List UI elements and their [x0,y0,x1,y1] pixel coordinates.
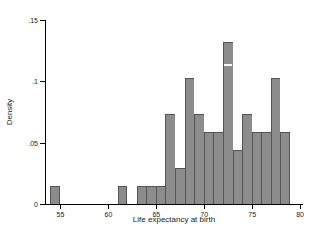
histogram-bar [194,114,204,204]
x-tick-label: 55 [50,210,71,219]
histogram-bar [252,132,262,204]
y-axis-title: Density [5,99,14,126]
y-axis-line [45,20,46,205]
x-tick-label: 75 [242,210,263,219]
histogram-bar [223,42,233,204]
y-tick [40,20,45,21]
x-tick-label: 60 [98,210,119,219]
histogram-bar [185,78,195,204]
x-tick-label: 70 [194,210,215,219]
histogram-bar [50,186,60,204]
histogram-bar [261,132,271,204]
y-tick [40,81,45,82]
y-tick-label: .05 [8,139,38,148]
histogram-bar [233,150,243,204]
histogram-bar [118,186,128,204]
histogram-bar [175,168,185,204]
histogram-bar [156,186,166,204]
histogram-bar [280,132,290,204]
y-tick-label: 0 [8,200,38,209]
x-tick [60,205,61,209]
histogram-bar [137,186,147,204]
histogram-bar [242,114,252,204]
y-tick [40,204,45,205]
white-line-artifact [224,64,232,66]
y-tick-label: .1 [8,77,38,86]
y-tick [40,143,45,144]
x-axis-line [45,204,303,205]
histogram-bar [165,114,175,204]
x-tick [252,205,253,209]
x-tick [204,205,205,209]
y-tick-label: .15 [8,16,38,25]
x-tick [156,205,157,209]
histogram-bar [213,132,223,204]
x-tick [108,205,109,209]
x-tick-label: 80 [290,210,311,219]
histogram-bar [271,78,281,204]
histogram-bar [146,186,156,204]
histogram-plot: Density Life expectancy at birth 0.05.1.… [0,0,314,246]
histogram-bar [204,132,214,204]
stata-graph-window: Density Life expectancy at birth 0.05.1.… [0,0,314,246]
x-tick-label: 65 [146,210,167,219]
x-tick [300,205,301,209]
